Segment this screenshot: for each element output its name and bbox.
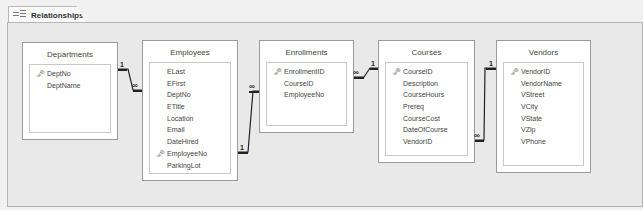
cardinality-one: 1	[371, 60, 375, 67]
cardinality-many: ∞	[474, 131, 480, 140]
cardinality-many: ∞	[132, 81, 138, 90]
cardinality-many: ∞	[249, 82, 255, 91]
cardinality-one: 1	[240, 144, 244, 151]
cardinality-one: 1	[120, 61, 124, 68]
relationship-departments-employees[interactable]	[118, 69, 142, 91]
cardinality-many: ∞	[353, 68, 359, 77]
relationship-lines: 1 ∞ 1 ∞ ∞ 1 ∞ 1	[0, 0, 643, 210]
cardinality-one: 1	[489, 60, 493, 67]
